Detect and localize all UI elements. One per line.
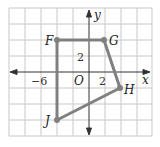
x-axis-label: x	[142, 73, 149, 87]
coordinate-plane: F G H J y x O −6 2 2	[0, 0, 160, 147]
tick-label-x-2: 2	[99, 75, 106, 88]
vertex-label-f: F	[44, 34, 54, 48]
origin-label: O	[74, 74, 84, 88]
tick-label-y-2: 2	[77, 51, 84, 64]
vertex-label-g: G	[109, 34, 119, 48]
axes	[10, 10, 150, 135]
y-axis-label: y	[93, 8, 101, 22]
tick-label-x-neg6: −6	[31, 75, 47, 88]
vertex-label-h: H	[123, 83, 135, 97]
vertex-label-j: J	[42, 114, 51, 128]
